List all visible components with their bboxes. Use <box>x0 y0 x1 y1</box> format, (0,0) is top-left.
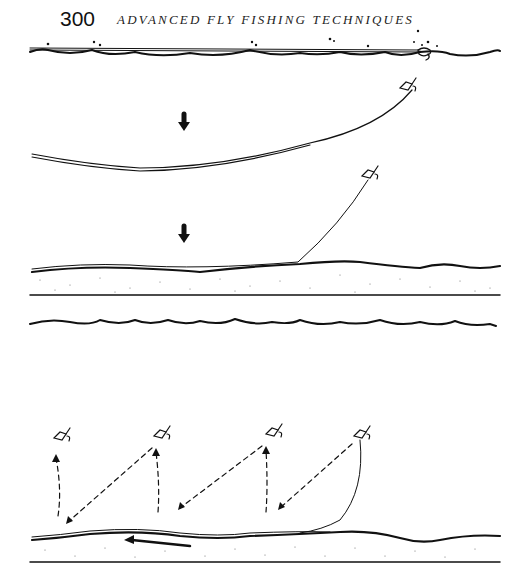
retrieve-arrow-icon <box>132 540 190 546</box>
fly-icon <box>400 78 416 91</box>
splash-droplets <box>47 30 438 47</box>
fly-icon <box>266 424 282 437</box>
bottom-contour-2 <box>32 532 500 542</box>
fly-icon <box>54 428 70 441</box>
illustration <box>0 0 531 563</box>
dashed-path-arrows <box>56 444 352 522</box>
fly-icon <box>154 426 170 439</box>
bottom-contour-1 <box>32 261 500 272</box>
fly-icon <box>354 426 370 439</box>
sand-texture <box>40 275 491 558</box>
fly-icon <box>362 166 378 179</box>
line-to-fly <box>300 440 361 533</box>
line-on-bottom <box>32 180 368 269</box>
water-surface-2 <box>30 319 496 326</box>
sinking-line <box>32 90 412 168</box>
